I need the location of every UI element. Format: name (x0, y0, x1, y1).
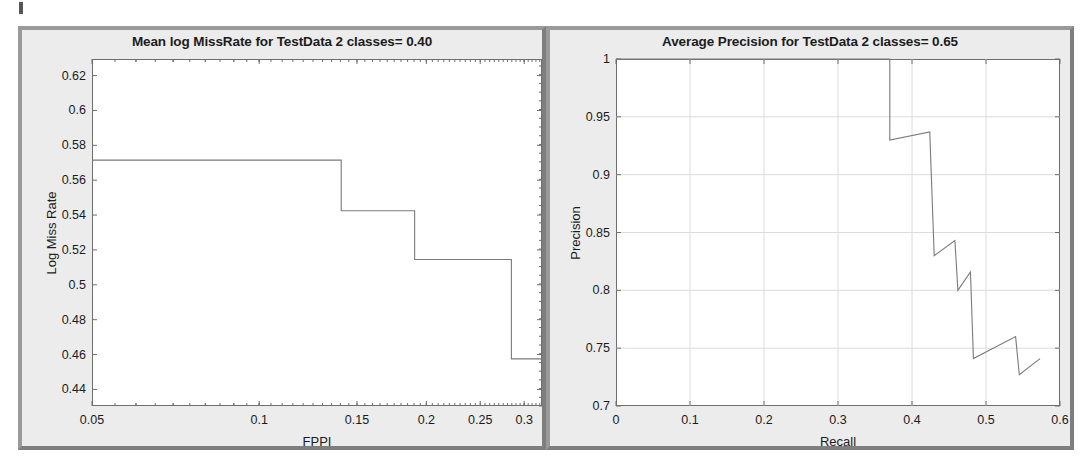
ytick-label: 0.85 (586, 226, 610, 240)
ytick-label: 0.54 (62, 208, 86, 222)
scan-artifact-speck (19, 2, 23, 14)
xtick-label: 0.2 (418, 413, 435, 427)
ytick-label: 0.56 (62, 173, 86, 187)
right-chart-canvas (550, 30, 1070, 446)
xtick-label: 0.5 (977, 413, 994, 427)
xtick-label: 0.3 (829, 413, 846, 427)
xtick-label: 0.2 (755, 413, 772, 427)
xtick-label: 0 (613, 413, 620, 427)
panel-mean-log-missrate: Mean log MissRate for TestData 2 classes… (18, 26, 546, 450)
ytick-label: 0.46 (62, 348, 86, 362)
ytick-label: 1 (603, 52, 610, 66)
xtick-label: 0.3 (515, 413, 532, 427)
right-xaxis-label: Recall (616, 434, 1060, 449)
ytick-label: 0.58 (62, 138, 86, 152)
ytick-label: 0.52 (62, 243, 86, 257)
xtick-label: 0.4 (903, 413, 920, 427)
ytick-label: 0.75 (586, 341, 610, 355)
ytick-label: 0.48 (62, 313, 86, 327)
xtick-label: 0.6 (1051, 413, 1068, 427)
left-chart-canvas (22, 30, 542, 446)
xtick-label: 0.05 (80, 413, 104, 427)
ytick-label: 0.7 (593, 399, 610, 413)
xtick-label: 0.1 (250, 413, 267, 427)
ytick-label: 0.44 (62, 382, 86, 396)
xtick-label: 0.25 (468, 413, 492, 427)
panel-average-precision: Average Precision for TestData 2 classes… (546, 26, 1074, 450)
ytick-label: 0.8 (593, 283, 610, 297)
ytick-label: 0.95 (586, 110, 610, 124)
xtick-label: 0.1 (681, 413, 698, 427)
ytick-label: 0.6 (69, 103, 86, 117)
xtick-label: 0.15 (345, 413, 369, 427)
ytick-label: 0.62 (62, 69, 86, 83)
right-yaxis-label: Precision (568, 206, 583, 259)
left-xaxis-label: FPPI (92, 434, 542, 449)
ytick-label: 0.9 (593, 168, 610, 182)
data-series-line (616, 59, 1040, 375)
left-yaxis-label: Log Miss Rate (44, 191, 59, 274)
ytick-label: 0.5 (69, 278, 86, 292)
figure-pair: Mean log MissRate for TestData 2 classes… (18, 26, 1074, 450)
data-series-line (92, 160, 542, 359)
